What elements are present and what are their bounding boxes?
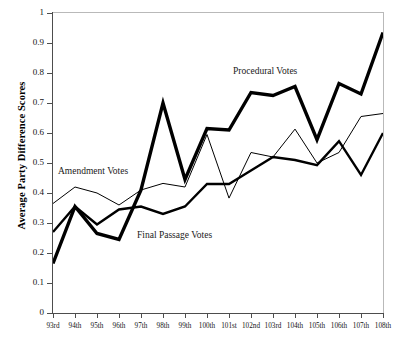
series-line-final-passage-votes [53,133,383,232]
y-tick-label: 0.5 [18,158,44,167]
series-label-procedural-votes: Procedural Votes [233,66,297,76]
plot-frame-right [383,12,384,314]
y-tick-label: 0.9 [18,38,44,47]
x-tick-mark [229,313,230,318]
x-tick-mark [53,313,54,318]
x-tick-mark [97,313,98,318]
x-tick-mark [273,313,274,318]
x-axis-line [52,313,384,314]
y-tick-label: 0.1 [18,278,44,287]
y-tick-label: 0.6 [18,128,44,137]
x-tick-mark [75,313,76,318]
x-tick-label: 108th [368,322,398,331]
x-tick-mark [295,313,296,318]
x-tick-mark [339,313,340,318]
y-tick-label: 0 [18,308,44,317]
x-tick-mark [383,313,384,318]
x-tick-mark [317,313,318,318]
series-lines [53,13,383,313]
x-tick-mark [251,313,252,318]
y-tick-label: 0.7 [18,98,44,107]
series-label-amendment-votes: Amendment Votes [58,166,128,176]
x-tick-mark [163,313,164,318]
y-tick-label: 0.2 [18,248,44,257]
y-tick-label: 0.4 [18,188,44,197]
series-line-amendment-votes [53,114,383,206]
x-tick-mark [141,313,142,318]
y-tick-label: 1 [18,8,44,17]
series-label-final-passage-votes: Final Passage Votes [137,230,212,240]
plot-area [53,13,383,313]
y-tick-label: 0.8 [18,68,44,77]
x-tick-mark [119,313,120,318]
x-tick-mark [207,313,208,318]
y-tick-label: 0.3 [18,218,44,227]
party-difference-line-chart: Average Party Difference Scores 10.90.80… [0,0,401,344]
x-tick-mark [361,313,362,318]
x-tick-mark [185,313,186,318]
